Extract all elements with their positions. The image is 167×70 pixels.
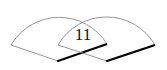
overlap-label: 11	[75, 25, 91, 44]
right-vertex-dot	[106, 60, 108, 62]
left-sector	[11, 17, 107, 61]
left-sector-left-edge	[11, 45, 58, 61]
diagram-canvas: 11	[0, 0, 167, 70]
right-sector-arc	[58, 17, 155, 45]
right-sector	[58, 17, 155, 61]
right-sector-bold-edge	[107, 45, 155, 61]
left-sector-arc	[11, 17, 107, 45]
left-vertex-dot	[57, 60, 59, 62]
